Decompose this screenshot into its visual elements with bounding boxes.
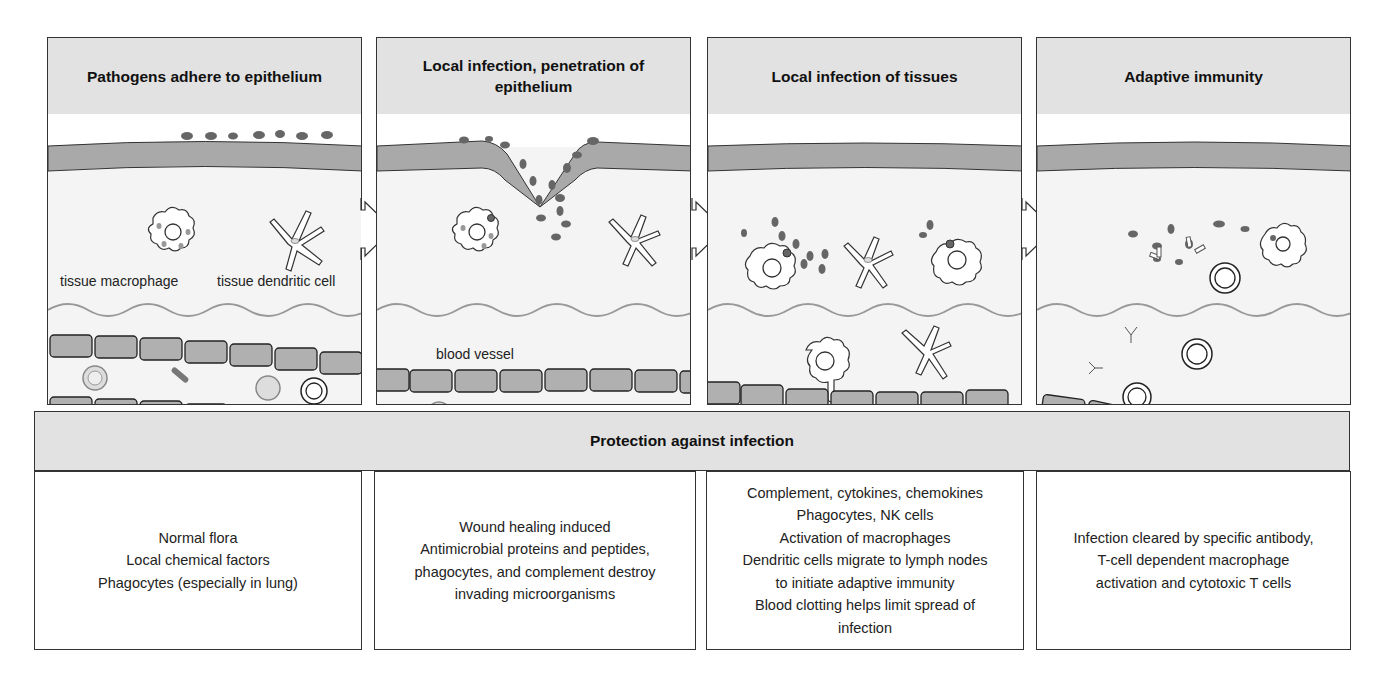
- stage-panel-pathogens-adhere: Pathogens adhere to epithelium tissue ma: [47, 37, 362, 405]
- panel-header: Adaptive immunity: [1037, 38, 1350, 115]
- stage-panel-local-infection-tissues: Local infection of tissues: [707, 37, 1022, 405]
- text-line: Activation of macrophages: [780, 527, 951, 550]
- text-line: Wound healing induced: [459, 516, 610, 539]
- protection-box-3: Complement, cytokines, chemokines Phagoc…: [706, 471, 1024, 650]
- lymphocyte-icon: [1182, 339, 1212, 369]
- text-line: Phagocytes (especially in lung): [98, 572, 298, 595]
- protection-title: Protection against infection: [590, 432, 794, 450]
- text-line: Infection cleared by specific antibody,: [1074, 527, 1314, 550]
- text-line: T-cell dependent macrophage: [1098, 549, 1290, 572]
- illustration-penetration: blood vessel: [377, 114, 691, 405]
- label-blood-vessel: blood vessel: [436, 346, 514, 362]
- text-line: Phagocytes, NK cells: [796, 504, 933, 527]
- protection-box-4: Infection cleared by specific antibody, …: [1036, 471, 1351, 650]
- illustration-adaptive: [1037, 114, 1351, 405]
- label-tissue-dendritic-cell: tissue dendritic cell: [217, 273, 335, 289]
- text-line: Complement, cytokines, chemokines: [747, 482, 983, 505]
- protection-box-1: Normal flora Local chemical factors Phag…: [34, 471, 362, 650]
- stage-panel-local-infection-penetration: Local infection, penetration of epitheli…: [376, 37, 691, 405]
- text-line: Antimicrobial proteins and peptides,: [420, 538, 650, 561]
- panel-title: Pathogens adhere to epithelium: [57, 66, 352, 87]
- text-line: Local chemical factors: [126, 549, 269, 572]
- panel-title: Local infection, penetration of epitheli…: [377, 55, 690, 97]
- text-line: infection: [838, 617, 892, 640]
- panel-title: Adaptive immunity: [1094, 66, 1293, 87]
- stage-panel-adaptive-immunity: Adaptive immunity: [1036, 37, 1351, 405]
- protection-header: Protection against infection: [34, 411, 1350, 471]
- panel-title: Local infection of tissues: [741, 66, 987, 87]
- extravasating-lymphocyte-icon: [1123, 383, 1151, 405]
- panel-header: Pathogens adhere to epithelium: [48, 38, 361, 115]
- macrophage-icon: [931, 239, 981, 285]
- protection-box-2: Wound healing induced Antimicrobial prot…: [374, 471, 696, 650]
- label-tissue-macrophage: tissue macrophage: [60, 273, 179, 289]
- text-line: activation and cytotoxic T cells: [1096, 572, 1291, 595]
- text-line: invading microorganisms: [455, 583, 615, 606]
- lymphocyte-icon: [1210, 263, 1240, 293]
- panel-header: Local infection, penetration of epitheli…: [377, 38, 690, 115]
- text-line: Dendritic cells migrate to lymph nodes: [743, 549, 988, 572]
- panel-header: Local infection of tissues: [708, 38, 1021, 115]
- text-line: phagocytes, and complement destroy: [415, 561, 656, 584]
- text-line: Blood clotting helps limit spread of: [755, 594, 975, 617]
- text-line: to initiate adaptive immunity: [776, 572, 955, 595]
- blood-vessel-wall: [377, 369, 691, 393]
- illustration-adhere: tissue macrophage tissue dendritic cell: [48, 114, 362, 405]
- illustration-tissue-infection: [708, 114, 1022, 405]
- text-line: Normal flora: [159, 527, 238, 550]
- macrophage-icon: [745, 243, 795, 289]
